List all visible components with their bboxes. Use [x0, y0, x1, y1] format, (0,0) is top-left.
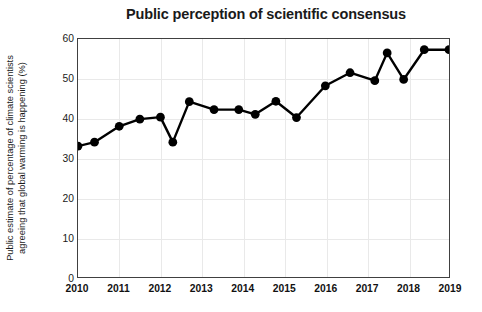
y-axis-tick-labels: 0102030405060: [46, 38, 74, 278]
data-point-12: [321, 81, 330, 90]
data-point-7: [210, 105, 219, 114]
data-point-8: [234, 105, 243, 114]
data-point-15: [383, 49, 392, 58]
data-point-11: [292, 113, 301, 122]
x-tick-2012: 2012: [148, 283, 171, 294]
y-axis-label-line2: agreeing that global warming is happenin…: [17, 55, 29, 261]
y-axis-label: Public estimate of percentage of climate…: [0, 38, 34, 278]
data-point-17: [420, 45, 429, 54]
data-point-16: [399, 75, 408, 84]
chart-title: Public perception of scientific consensu…: [60, 6, 472, 22]
data-series-line: [78, 39, 449, 277]
x-tick-2013: 2013: [190, 283, 213, 294]
series-markers: [77, 45, 450, 150]
x-tick-2015: 2015: [273, 283, 296, 294]
y-tick-20: 20: [48, 193, 74, 204]
x-axis-tick-labels: 2010201120122013201420152016201720182019: [77, 283, 450, 299]
chart-figure: Public perception of scientific consensu…: [0, 0, 482, 312]
y-tick-50: 50: [48, 73, 74, 84]
data-point-18: [445, 45, 450, 54]
x-tick-2019: 2019: [439, 283, 462, 294]
x-tick-2010: 2010: [66, 283, 89, 294]
y-tick-0: 0: [48, 273, 74, 284]
data-point-5: [168, 138, 177, 147]
data-point-0: [77, 142, 82, 151]
data-point-3: [135, 115, 144, 124]
data-point-1: [90, 138, 99, 147]
series-polyline: [78, 50, 449, 146]
data-point-2: [115, 122, 124, 131]
data-point-10: [271, 97, 280, 106]
data-point-9: [251, 110, 260, 119]
data-point-13: [346, 68, 355, 77]
plot-area: [77, 38, 450, 278]
data-point-6: [185, 97, 194, 106]
data-point-14: [370, 76, 379, 85]
y-axis-label-line1: Public estimate of percentage of climate…: [5, 55, 15, 261]
x-tick-2018: 2018: [397, 283, 420, 294]
x-tick-2011: 2011: [107, 283, 129, 294]
y-tick-30: 30: [48, 153, 74, 164]
x-tick-2014: 2014: [231, 283, 254, 294]
x-tick-2016: 2016: [314, 283, 337, 294]
y-tick-40: 40: [48, 113, 74, 124]
x-tick-2017: 2017: [356, 283, 379, 294]
data-point-4: [156, 113, 165, 122]
y-tick-10: 10: [48, 233, 74, 244]
y-tick-60: 60: [48, 33, 74, 44]
